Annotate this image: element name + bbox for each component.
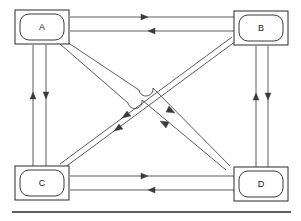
link-a-to-c-arrowhead xyxy=(43,92,49,99)
link-group-a-b xyxy=(70,14,234,34)
node-c-label: C xyxy=(39,178,46,188)
link-c-to-d-arrowhead xyxy=(141,173,148,179)
node-b[interactable]: B xyxy=(234,11,288,45)
node-d-label: D xyxy=(258,179,265,189)
link-d-to-b-arrowhead xyxy=(253,93,259,100)
link-group-a-c xyxy=(30,45,49,166)
node-a-label: A xyxy=(39,22,45,32)
link-d-to-c-arrowhead xyxy=(148,187,155,193)
link-c-to-a-arrowhead xyxy=(30,92,36,99)
link-b-to-d-arrowhead xyxy=(265,93,271,100)
node-d[interactable]: D xyxy=(234,167,288,201)
link-d-to-a-arrowhead xyxy=(160,121,169,128)
node-a[interactable]: A xyxy=(15,10,69,44)
link-b-to-c-line xyxy=(64,41,236,168)
link-a-to-b-arrowhead xyxy=(141,14,148,20)
network-diagram-figure: A B C D xyxy=(0,0,301,221)
node-c[interactable]: C xyxy=(15,166,69,200)
link-c-to-b-line xyxy=(60,37,232,164)
link-group-b-d xyxy=(253,46,271,167)
link-group-a-d xyxy=(60,40,230,170)
link-group-b-c xyxy=(60,37,236,168)
network-diagram-canvas: A B C D xyxy=(0,0,301,221)
link-b-to-a-arrowhead xyxy=(148,28,155,34)
link-group-c-d xyxy=(70,173,234,193)
link-d-to-a-line xyxy=(60,44,226,170)
link-a-to-d-line xyxy=(64,40,230,166)
node-b-label: B xyxy=(258,23,264,33)
